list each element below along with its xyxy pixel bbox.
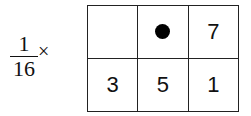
fraction-numerator: 1: [10, 34, 38, 54]
kernel-cell-empty: [88, 6, 138, 59]
kernel-row: 7: [88, 6, 239, 59]
kernel-cell-weight: 1: [188, 59, 238, 112]
current-pixel-dot-icon: [155, 24, 170, 39]
kernel-row: 3 5 1: [88, 59, 239, 112]
kernel-cell-weight: 7: [188, 6, 238, 59]
scale-fraction: 1 16: [10, 34, 38, 79]
multiply-operator: ×: [38, 40, 49, 63]
fraction-denominator: 16: [10, 59, 38, 79]
kernel-cell-weight: 5: [138, 59, 188, 112]
kernel-cell-weight: 3: [88, 59, 138, 112]
kernel-cell-current-pixel: [138, 6, 188, 59]
kernel-grid: 7 3 5 1: [87, 5, 239, 112]
